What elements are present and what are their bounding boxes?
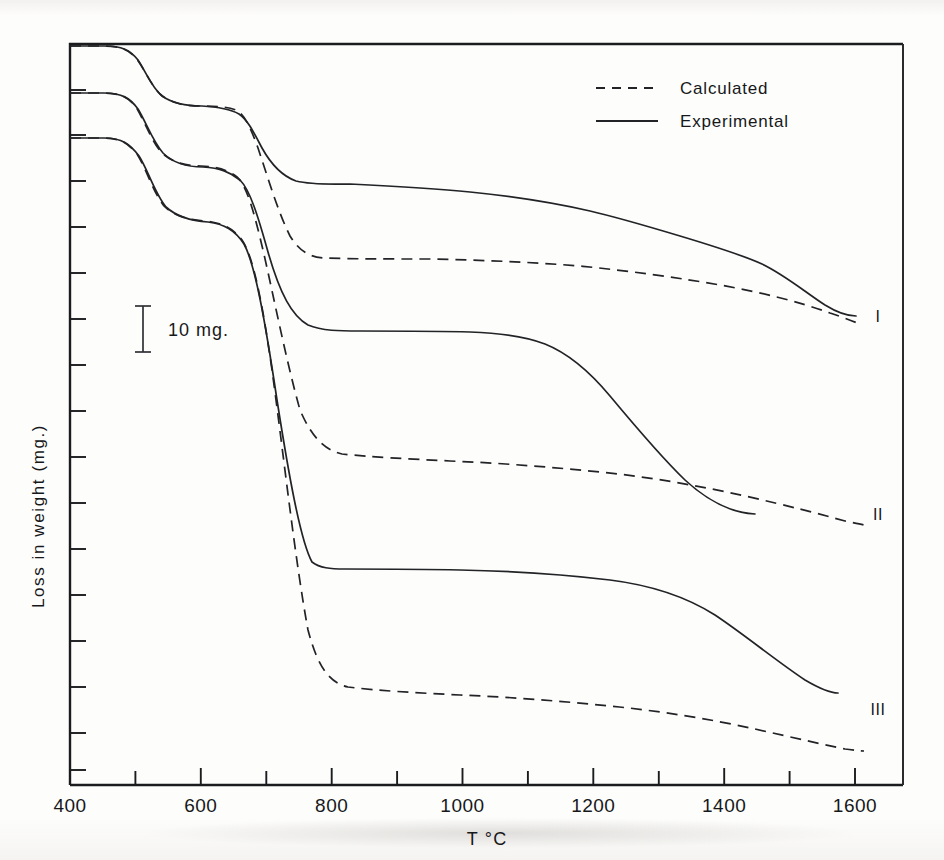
plot-frame	[70, 44, 903, 785]
scale-bar-label: 10 mg.	[168, 320, 229, 340]
legend-label-calculated: Calculated	[680, 79, 768, 98]
x-axis-title: T °C	[467, 829, 508, 849]
x-tick-label-400: 400	[53, 795, 86, 816]
legend-label-experimental: Experimental	[680, 112, 789, 131]
curve-ii-calculated	[70, 93, 864, 525]
x-tick-labels: 400 600 800 1000 1200 1400 1600	[53, 795, 877, 816]
x-tick-label-1200: 1200	[571, 795, 615, 816]
tga-line-chart: 400 600 800 1000 1200 1400 1600 T °C	[0, 0, 944, 860]
scanned-figure-page: 400 600 800 1000 1200 1400 1600 T °C	[0, 0, 944, 860]
y-axis-title: Loss in weight (mg.)	[29, 424, 48, 608]
x-tick-label-600: 600	[184, 795, 217, 816]
curve-iii-calculated	[70, 138, 864, 751]
curve-ii-experimental	[70, 93, 755, 514]
x-tick-label-1400: 1400	[702, 795, 746, 816]
x-axis-ticks	[70, 768, 855, 785]
curve-group-iii: III	[70, 138, 885, 751]
x-tick-label-800: 800	[315, 795, 348, 816]
curve-iii-experimental	[70, 138, 838, 693]
x-tick-label-1000: 1000	[440, 795, 484, 816]
curve-group-ii: II	[70, 93, 883, 525]
x-tick-label-1600: 1600	[833, 795, 877, 816]
legend: Calculated Experimental	[596, 79, 789, 131]
curve-label-i: I	[876, 308, 881, 325]
scale-bar	[135, 306, 151, 352]
y-axis-ticks	[70, 90, 86, 770]
curve-label-ii: II	[873, 506, 883, 523]
curve-label-iii: III	[871, 701, 886, 718]
